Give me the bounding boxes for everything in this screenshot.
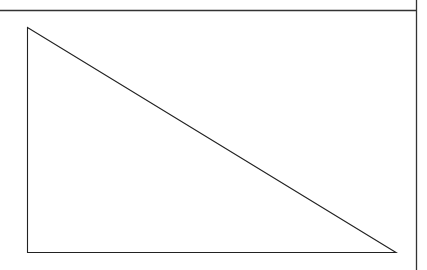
diagram-canvas (0, 0, 427, 270)
right-triangle (28, 28, 397, 253)
